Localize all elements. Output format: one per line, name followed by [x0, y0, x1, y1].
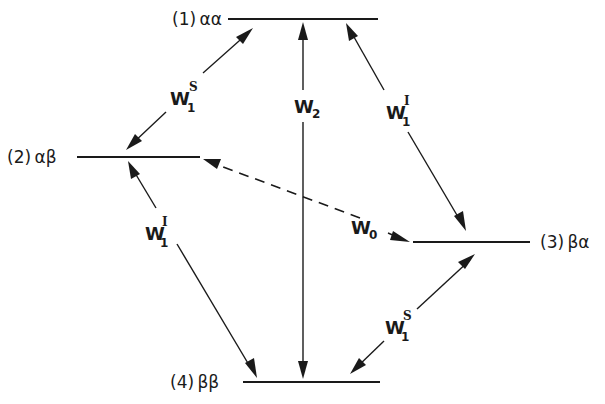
w1i-13-subscript: 1 — [402, 115, 410, 129]
transition-w1s-34: W 1 S — [350, 254, 475, 374]
arrow-segment — [177, 244, 252, 370]
arrowhead-icon — [203, 159, 221, 169]
arrow-segment — [408, 132, 461, 222]
arrowhead-icon — [298, 361, 308, 379]
level-2-label: (2) αβ — [7, 147, 57, 167]
w2-subscript: 2 — [312, 107, 320, 121]
w2-label: W — [294, 96, 314, 117]
arrowhead-icon — [128, 161, 140, 179]
w1s-34-subscript: 1 — [401, 330, 409, 344]
w0-subscript: 0 — [369, 228, 377, 242]
w1i-24-subscript: 1 — [160, 236, 168, 250]
transition-w2-14: W 2 — [294, 22, 320, 379]
w1s-subscript: 1 — [187, 101, 195, 115]
arrowhead-icon — [458, 254, 475, 269]
level-4-label: (4) ββ — [170, 372, 219, 392]
w1i-13-superscript: I — [404, 94, 410, 108]
w1s-superscript: S — [189, 80, 198, 94]
dashed-arrow-segment — [210, 162, 360, 218]
arrow-segment — [417, 260, 470, 309]
transition-w1i-13: W 1 I — [346, 23, 466, 231]
level-2: (2) αβ — [7, 147, 200, 167]
level-3: (3) βα — [413, 232, 590, 252]
w1s-34-superscript: S — [403, 309, 412, 323]
level-4: (4) ββ — [170, 372, 380, 392]
arrowhead-icon — [390, 231, 410, 242]
energy-level-diagram: (1) αα (2) αβ (3) βα (4) ββ W 1 S W 2 W — [0, 0, 605, 404]
arrow-segment — [350, 30, 384, 90]
transition-w0-23: W 0 — [203, 159, 410, 242]
w1i-24-superscript: I — [162, 215, 168, 229]
transition-w1i-24: W 1 I — [128, 161, 257, 378]
arrowhead-icon — [346, 23, 358, 41]
level-3-label: (3) βα — [540, 232, 590, 252]
level-1-label: (1) αα — [172, 9, 222, 29]
transition-w1s-12: W 1 S — [126, 28, 253, 150]
arrowhead-icon — [298, 22, 308, 40]
w0-label: W — [351, 217, 371, 238]
